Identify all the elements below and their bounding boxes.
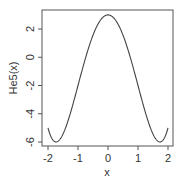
y-tick-label: 2	[24, 26, 36, 32]
y-axis-label: He5(x)	[7, 61, 19, 94]
chart: -2-1012 -6-4-202 x He5(x)	[0, 0, 184, 187]
y-tick-label: -2	[24, 81, 36, 91]
plot-box	[42, 10, 173, 146]
y-tick-label: 0	[24, 54, 36, 60]
x-tick-label: -1	[73, 152, 83, 164]
x-axis-label: x	[104, 166, 110, 178]
y-tick-label: -4	[24, 109, 36, 119]
x-tick-label: 1	[135, 152, 141, 164]
x-axis: -2-1012	[43, 146, 171, 164]
y-tick-label: -6	[24, 137, 36, 147]
x-tick-label: -2	[43, 152, 53, 164]
y-axis: -6-4-202	[24, 26, 42, 147]
x-tick-label: 2	[165, 152, 171, 164]
data-line	[48, 15, 168, 142]
x-tick-label: 0	[105, 152, 111, 164]
